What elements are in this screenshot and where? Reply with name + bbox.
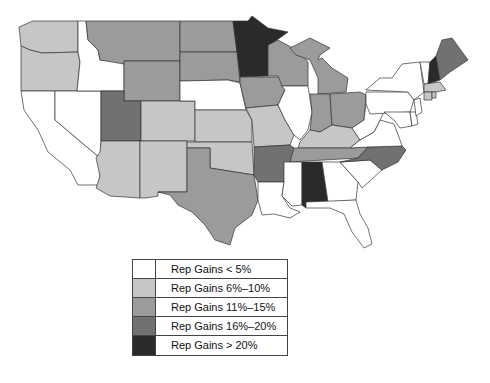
state-or bbox=[21, 46, 80, 91]
legend-swatch bbox=[133, 279, 156, 297]
state-fl bbox=[306, 200, 372, 248]
state-in bbox=[310, 94, 332, 132]
state-nm bbox=[140, 141, 187, 198]
state-me bbox=[436, 38, 468, 80]
state-ia bbox=[240, 77, 285, 108]
legend-item-11to15: Rep Gains 11%–15% bbox=[133, 298, 287, 317]
legend-label: Rep Gains 6%–10% bbox=[156, 279, 270, 297]
state-wy bbox=[124, 61, 180, 101]
state-ms bbox=[282, 162, 302, 206]
state-sd bbox=[180, 52, 240, 82]
legend-swatch bbox=[133, 336, 156, 355]
legend-label: Rep Gains 16%–20% bbox=[156, 317, 276, 335]
state-wa bbox=[19, 21, 78, 53]
legend-swatch bbox=[133, 260, 156, 278]
legend-item-lt5: Rep Gains < 5% bbox=[133, 260, 287, 279]
state-az bbox=[96, 141, 140, 198]
legend-item-6to10: Rep Gains 6%–10% bbox=[133, 279, 287, 298]
legend-label: Rep Gains 11%–15% bbox=[156, 298, 275, 316]
state-co bbox=[141, 101, 195, 141]
us-choropleth-map bbox=[0, 0, 490, 250]
state-mt bbox=[86, 21, 180, 64]
state-ks bbox=[195, 110, 252, 142]
state-ri bbox=[432, 92, 436, 98]
map-legend: Rep Gains < 5% Rep Gains 6%–10% Rep Gain… bbox=[132, 259, 288, 356]
state-pa bbox=[366, 92, 414, 114]
state-ma bbox=[424, 82, 446, 92]
legend-swatch bbox=[133, 317, 156, 335]
state-nd bbox=[180, 21, 237, 52]
legend-swatch bbox=[133, 298, 156, 316]
legend-label: Rep Gains > 20% bbox=[156, 336, 258, 355]
legend-item-gt20: Rep Gains > 20% bbox=[133, 336, 287, 355]
legend-label: Rep Gains < 5% bbox=[156, 260, 251, 278]
legend-item-16to20: Rep Gains 16%–20% bbox=[133, 317, 287, 336]
state-ct bbox=[424, 92, 432, 100]
